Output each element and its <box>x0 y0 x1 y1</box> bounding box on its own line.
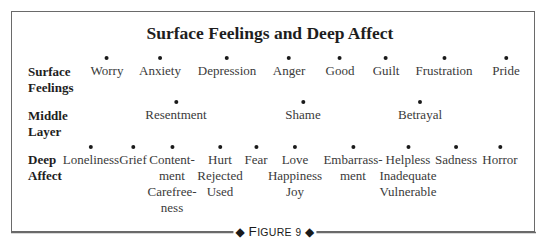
feeling-label: ness <box>147 200 196 216</box>
feeling-label: Carefree- <box>147 184 196 200</box>
bullet-dot-icon <box>131 145 135 149</box>
feeling-label: Frustration <box>415 63 472 79</box>
bullet-dot-icon <box>504 56 508 60</box>
row-label-line: Affect <box>28 168 62 184</box>
bullet-dot-icon <box>498 145 502 149</box>
feeling-label: Worry <box>91 63 124 79</box>
bullet-dot-icon <box>89 145 93 149</box>
feeling-label: Rejected <box>197 168 242 184</box>
feeling-label: Used <box>197 184 242 200</box>
diamond-icon: ◆ <box>305 224 315 240</box>
feeling-label: Betrayal <box>398 107 442 123</box>
bullet-dot-icon <box>174 100 178 104</box>
bullet-dot-icon <box>418 100 422 104</box>
diamond-icon: ◆ <box>235 224 245 240</box>
feeling-label: Inadequate <box>379 168 436 184</box>
bullet-dot-icon <box>287 56 291 60</box>
feeling-item: Guilt <box>373 56 400 79</box>
feeling-item: Pride <box>492 56 519 79</box>
bullet-dot-icon <box>170 145 174 149</box>
caption-number: 9 <box>296 227 302 238</box>
feeling-label: Happiness <box>268 168 322 184</box>
bullet-dot-icon <box>218 145 222 149</box>
feeling-label: Content- <box>147 152 196 168</box>
row-label-line: Surface <box>28 64 74 80</box>
bullet-dot-icon <box>406 145 410 149</box>
feeling-item: Fear <box>244 145 267 168</box>
feeling-item: Grief <box>119 145 146 168</box>
figure-caption: ◆ FIGURE 9 ◆ <box>233 224 316 241</box>
feeling-label: Anxiety <box>139 63 181 79</box>
caption-word: IGURE <box>257 226 292 238</box>
feeling-item: Horror <box>482 145 517 168</box>
row-label-deep-affect: Deep Affect <box>28 152 62 184</box>
feeling-label: ment <box>323 168 382 184</box>
feeling-item: Sadness <box>435 145 477 168</box>
feeling-item: Resentment <box>145 100 206 123</box>
feeling-item: Anger <box>273 56 306 79</box>
feeling-item: LoveHappinessJoy <box>268 145 322 200</box>
bullet-dot-icon <box>442 56 446 60</box>
feeling-item: HelplessInadequateVulnerable <box>379 145 436 200</box>
feeling-label: Fear <box>244 152 267 168</box>
bullet-dot-icon <box>254 145 258 149</box>
feeling-label: Joy <box>268 184 322 200</box>
feeling-label: Grief <box>119 152 146 168</box>
figure-caption-rule: ◆ FIGURE 9 ◆ <box>0 224 550 242</box>
feeling-item: Content-mentCarefree-ness <box>147 145 196 216</box>
feeling-label: Embarrass- <box>323 152 382 168</box>
feeling-item: Shame <box>285 100 320 123</box>
feeling-item: Frustration <box>415 56 472 79</box>
figure-title: Surface Feelings and Deep Affect <box>0 23 540 44</box>
bullet-dot-icon <box>158 56 162 60</box>
feeling-label: Loneliness <box>63 152 119 168</box>
feeling-label: Horror <box>482 152 517 168</box>
feeling-item: Loneliness <box>63 145 119 168</box>
row-label-line: Middle <box>28 108 68 124</box>
feeling-label: Love <box>268 152 322 168</box>
feeling-item: Depression <box>198 56 257 79</box>
bullet-dot-icon <box>293 145 297 149</box>
feeling-item: Anxiety <box>139 56 181 79</box>
caption-initial: F <box>249 224 258 239</box>
feeling-label: Vulnerable <box>379 184 436 200</box>
row-label-line: Feelings <box>28 80 74 96</box>
feeling-label: Guilt <box>373 63 400 79</box>
bullet-dot-icon <box>351 145 355 149</box>
bullet-dot-icon <box>105 56 109 60</box>
feeling-item: Embarrass-ment <box>323 145 382 184</box>
bullet-dot-icon <box>454 145 458 149</box>
bullet-dot-icon <box>225 56 229 60</box>
feeling-label: Resentment <box>145 107 206 123</box>
feeling-item: Worry <box>91 56 124 79</box>
feeling-label: Sadness <box>435 152 477 168</box>
bullet-dot-icon <box>384 56 388 60</box>
feeling-item: HurtRejectedUsed <box>197 145 242 200</box>
feeling-label: Good <box>326 63 355 79</box>
feeling-label: Depression <box>198 63 257 79</box>
feeling-item: Good <box>326 56 355 79</box>
feeling-label: ment <box>147 168 196 184</box>
feeling-label: Helpless <box>379 152 436 168</box>
feeling-label: Shame <box>285 107 320 123</box>
feeling-label: Pride <box>492 63 519 79</box>
row-label-surface-feelings: Surface Feelings <box>28 64 74 96</box>
feeling-label: Hurt <box>197 152 242 168</box>
row-label-line: Layer <box>28 124 68 140</box>
bullet-dot-icon <box>301 100 305 104</box>
bullet-dot-icon <box>338 56 342 60</box>
feeling-label: Anger <box>273 63 306 79</box>
row-label-line: Deep <box>28 152 62 168</box>
row-label-middle-layer: Middle Layer <box>28 108 68 140</box>
feeling-item: Betrayal <box>398 100 442 123</box>
